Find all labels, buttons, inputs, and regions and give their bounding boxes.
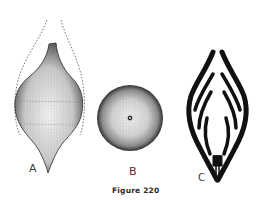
figure-caption: Figure 220 xyxy=(112,187,159,195)
rib-right-3 xyxy=(224,118,228,154)
panel-b-circle xyxy=(97,85,163,151)
panel-a-spindle xyxy=(15,20,85,173)
panel-label-a: A xyxy=(29,163,37,174)
panel-label-b: B xyxy=(129,166,137,177)
panel-label-c: C xyxy=(198,172,205,183)
basal-stalk xyxy=(213,156,222,166)
panel-c-leaf xyxy=(189,52,246,180)
rib-left-3 xyxy=(205,118,210,154)
